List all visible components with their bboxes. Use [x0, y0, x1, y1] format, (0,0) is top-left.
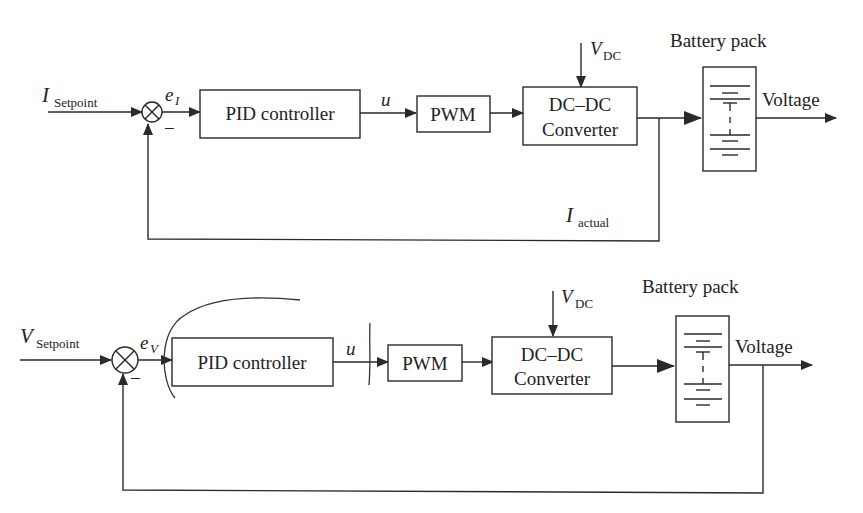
- converter-label-line1: DC–DC: [521, 344, 583, 365]
- battery-pack-block: [703, 67, 756, 171]
- summing-junction: [142, 102, 162, 122]
- converter-label-line2: Converter: [514, 368, 591, 389]
- input-label-symbol: V: [20, 324, 35, 348]
- vdc-label-subscript: DC: [603, 48, 621, 63]
- feedback-label-symbol: I: [565, 203, 574, 227]
- pid-controller-label: PID controller: [225, 103, 335, 124]
- error-label-subscript: I: [174, 93, 180, 108]
- pid-controller-label: PID controller: [197, 352, 307, 373]
- converter-label-line2: Converter: [542, 119, 619, 140]
- output-label: Voltage: [762, 89, 820, 110]
- vdc-label-symbol: V: [590, 38, 604, 59]
- control-signal-label: u: [346, 338, 356, 359]
- control-loop-diagrams: I Setpoint − e I PID controller u PWM V …: [0, 0, 863, 513]
- current-control-loop: I Setpoint − e I PID controller u PWM V …: [41, 30, 836, 241]
- battery-pack-title: Battery pack: [642, 276, 739, 297]
- pwm-label: PWM: [402, 353, 448, 374]
- input-label-symbol: I: [41, 83, 50, 107]
- error-label-symbol: e: [165, 84, 173, 105]
- vdc-label-symbol: V: [561, 286, 575, 307]
- error-label-subscript: V: [150, 341, 160, 356]
- battery-pack-title: Battery pack: [670, 30, 767, 51]
- output-label: Voltage: [735, 336, 793, 357]
- input-label-subscript: Setpoint: [36, 336, 80, 351]
- control-signal-label: u: [381, 89, 391, 110]
- input-label-subscript: Setpoint: [54, 95, 98, 110]
- handwritten-tick-mark: [369, 323, 370, 385]
- battery-pack-block: [676, 316, 729, 422]
- minus-sign: −: [130, 368, 141, 389]
- converter-label-line1: DC–DC: [549, 94, 611, 115]
- pwm-label: PWM: [430, 104, 476, 125]
- error-label-symbol: e: [140, 332, 148, 353]
- minus-sign: −: [164, 118, 175, 139]
- feedback-label-subscript: actual: [578, 215, 609, 230]
- vdc-label-subscript: DC: [575, 296, 593, 311]
- voltage-control-loop: V Setpoint − e V PID controller u PWM V …: [20, 276, 812, 493]
